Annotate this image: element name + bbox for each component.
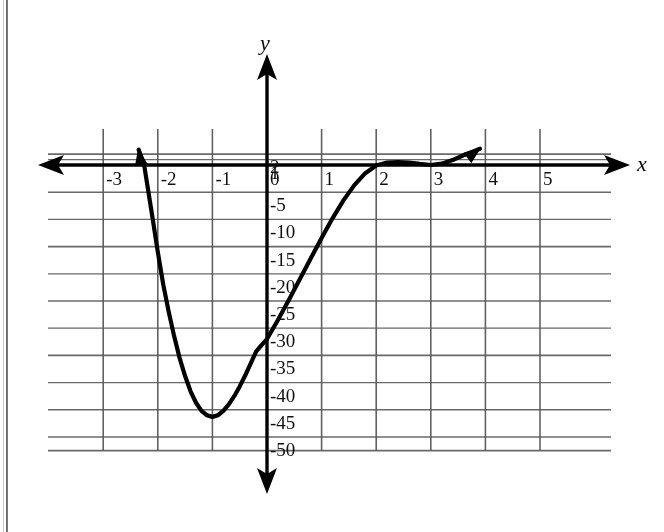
y-tick-label-neg45: -45 [270,413,295,432]
x-tick-label-neg3: -3 [106,169,122,188]
y-tick-label-neg30: -30 [270,331,295,350]
y-tick-label-neg25: -25 [270,304,295,323]
y-tick-label-neg10: -10 [270,222,295,241]
x-tick-label-4: 4 [488,169,498,188]
scanned-figure-page: -3-2-101234521-5-10-15-20-25-30-35-40-45… [0,0,664,532]
y-tick-label-1: 1 [270,163,280,182]
x-tick-label-1: 1 [325,169,335,188]
y-axis-label: y [260,32,270,54]
y-tick-label-neg50: -50 [270,440,295,459]
plotted-curve [135,148,481,417]
y-tick-label-neg5: -5 [270,195,286,214]
x-tick-label-neg1: -1 [215,169,231,188]
y-tick-label-neg40: -40 [270,386,295,405]
horizontal-gridlines [48,154,611,450]
x-axis-label: x [637,153,647,175]
y-tick-label-neg20: -20 [270,277,295,296]
y-tick-label-neg35: -35 [270,358,295,377]
x-tick-label-5: 5 [543,169,553,188]
y-tick-label-neg15: -15 [270,250,295,269]
x-tick-label-3: 3 [434,169,444,188]
x-tick-label-2: 2 [379,169,389,188]
graph-canvas [0,0,664,532]
x-tick-label-neg2: -2 [161,169,177,188]
